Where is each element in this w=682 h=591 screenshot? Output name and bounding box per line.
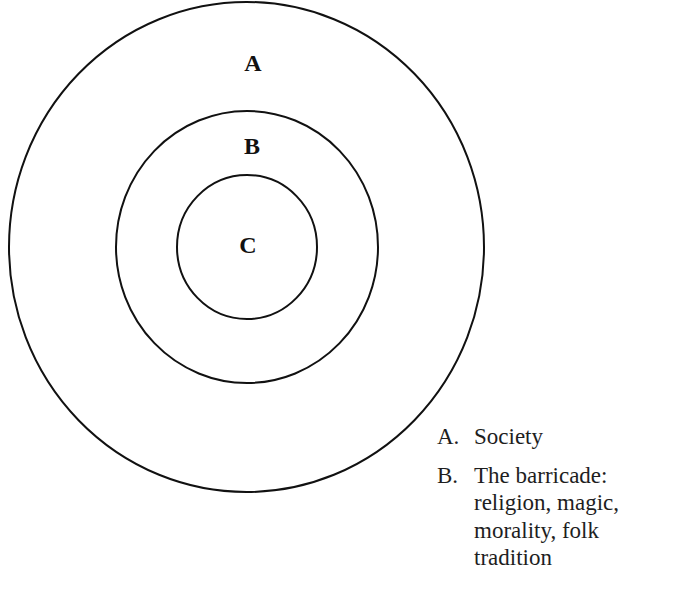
legend-item-b: B. The barricade: religion, magic, moral… xyxy=(437,462,682,572)
legend-key: B. xyxy=(437,462,474,572)
legend-text: The barricade: religion, magic, morality… xyxy=(474,462,682,572)
legend-text: Society xyxy=(474,423,682,451)
legend: A. Society B. The barricade: religion, m… xyxy=(437,423,682,583)
ring-a-label: A xyxy=(244,50,262,76)
ring-c-label: C xyxy=(239,232,256,258)
legend-key: A. xyxy=(437,423,474,451)
legend-item-a: A. Society xyxy=(437,423,682,451)
ring-b-label: B xyxy=(244,133,260,159)
